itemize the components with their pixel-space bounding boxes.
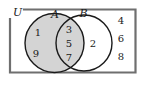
universe-label: U [13, 6, 23, 19]
element-intersection-1: 3 [66, 24, 72, 35]
set-a-label: A [50, 8, 59, 21]
element-intersection-2: 5 [66, 38, 72, 49]
venn-diagram-figure: U A B 1 9 3 5 7 2 4 6 8 [0, 0, 145, 86]
element-outside-3: 8 [118, 51, 124, 62]
element-intersection-3: 7 [66, 52, 72, 63]
element-b-only-1: 2 [90, 38, 96, 49]
element-a-only-2: 9 [33, 48, 39, 59]
venn-diagram-canvas: U A B 1 9 3 5 7 2 4 6 8 [0, 0, 145, 86]
element-outside-1: 4 [118, 15, 124, 26]
element-a-only-1: 1 [35, 27, 41, 38]
set-b-label: B [78, 7, 87, 20]
element-outside-2: 6 [118, 33, 124, 44]
